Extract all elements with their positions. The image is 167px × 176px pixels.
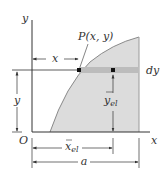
a-dimension-label: a — [81, 155, 88, 168]
point-p — [77, 68, 81, 72]
horizontal-strip-dy — [79, 67, 139, 73]
area-centroid-diagram: x y P(x, y) yel dy y x O xel a — [0, 0, 167, 176]
x-axis-label: x — [151, 134, 158, 147]
y-dimension-label: y — [13, 94, 21, 107]
strip-centroid — [111, 68, 115, 72]
x-dimension-label: x — [52, 52, 59, 65]
point-p-leader — [80, 44, 88, 67]
point-p-label: P(x, y) — [77, 30, 113, 43]
origin-label: O — [19, 134, 28, 147]
dy-label: dy — [146, 64, 160, 77]
y-axis-label: y — [21, 12, 29, 25]
shaded-region — [50, 37, 139, 132]
